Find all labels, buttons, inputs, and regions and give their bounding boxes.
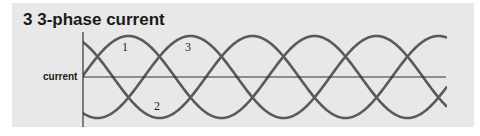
phase-3-label: 3 xyxy=(185,40,191,54)
phase-current-plot: 1 3 2 xyxy=(0,0,480,136)
phase-1-label: 1 xyxy=(122,40,128,54)
phase-2-label: 2 xyxy=(154,99,160,113)
